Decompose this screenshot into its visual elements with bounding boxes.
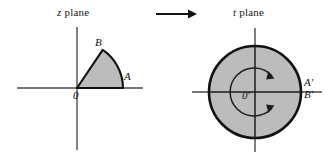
t-plane-point-a-label: A' xyxy=(304,76,313,88)
t-plane-point-b-label: B' xyxy=(304,88,313,100)
z-plane-group xyxy=(17,27,143,150)
mapping-arrow-head-icon xyxy=(188,10,197,19)
mapping-arrow-group xyxy=(156,10,197,19)
t-plane-origin-label: 0' xyxy=(242,89,250,101)
complex-plane-mapping-figure: z plane t plane xyxy=(0,0,331,157)
z-plane-sector-region xyxy=(77,50,123,88)
t-plane-group xyxy=(192,28,322,152)
z-plane-point-a-label: A xyxy=(124,70,131,82)
figure-vector-layer xyxy=(0,0,331,157)
z-plane-point-b-label: B xyxy=(95,36,102,48)
z-plane-origin-label: 0 xyxy=(73,89,79,101)
